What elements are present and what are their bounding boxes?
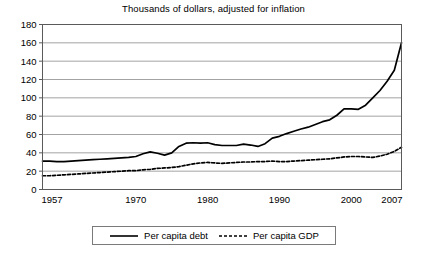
- y-axis-tick-labels: 020406080100120140160180: [21, 19, 37, 195]
- y-tick-label: 180: [21, 19, 37, 30]
- legend-label-debt: Per capita debt: [144, 231, 208, 241]
- y-tick-label: 40: [26, 147, 37, 158]
- legend-line-dashed-icon: [218, 232, 248, 240]
- legend-label-gdp: Per capita GDP: [253, 231, 319, 241]
- data-series: [43, 43, 402, 176]
- legend-item-per-capita-gdp: Per capita GDP: [218, 231, 319, 241]
- y-axis-tick-marks: [39, 25, 43, 190]
- x-tick-label: 1957: [42, 194, 63, 205]
- x-tick-label: 1990: [269, 194, 290, 205]
- chart-plot: 020406080100120140160180 195719701980199…: [0, 0, 427, 259]
- gridlines: [43, 43, 402, 171]
- y-tick-label: 120: [21, 74, 37, 85]
- legend-line-solid-icon: [109, 232, 139, 240]
- plot-frame: [43, 25, 402, 190]
- x-axis-tick-labels: 195719701980199020002007: [42, 194, 403, 205]
- x-tick-label: 2007: [381, 194, 402, 205]
- y-tick-label: 100: [21, 92, 37, 103]
- y-tick-label: 80: [26, 111, 37, 122]
- chart-container: Thousands of dollars, adjusted for infla…: [0, 0, 427, 259]
- y-tick-label: 60: [26, 129, 37, 140]
- y-tick-label: 140: [21, 56, 37, 67]
- x-tick-label: 2000: [341, 194, 362, 205]
- chart-legend: Per capita debt Per capita GDP: [92, 226, 336, 245]
- series-line: [43, 43, 402, 162]
- y-tick-label: 160: [21, 37, 37, 48]
- y-tick-label: 20: [26, 166, 37, 177]
- x-tick-label: 1970: [125, 194, 146, 205]
- legend-item-per-capita-debt: Per capita debt: [109, 231, 208, 241]
- x-tick-label: 1980: [197, 194, 218, 205]
- y-tick-label: 0: [31, 184, 36, 195]
